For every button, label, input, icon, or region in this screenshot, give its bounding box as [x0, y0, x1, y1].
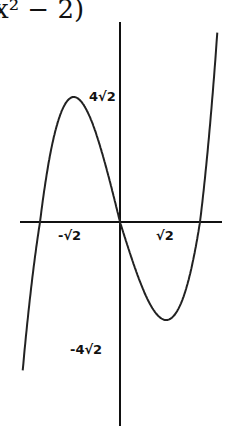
min-label: -4√2 [70, 342, 102, 357]
neg-root-label: -√2 [58, 228, 81, 243]
pos-root-label: √2 [156, 228, 174, 243]
cubic-plot [0, 0, 226, 426]
max-label: 4√2 [89, 89, 116, 104]
